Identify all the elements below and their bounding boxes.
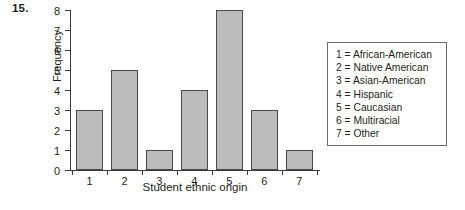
legend-entry: 4 = Hispanic bbox=[336, 88, 440, 101]
x-axis-tick bbox=[247, 170, 248, 175]
y-axis-tick-label: 8 bbox=[54, 5, 60, 16]
x-axis-tick bbox=[317, 170, 318, 175]
legend-entry: 3 = Asian-American bbox=[336, 74, 440, 87]
x-axis-tick bbox=[212, 170, 213, 175]
bar bbox=[146, 150, 173, 170]
y-axis-tick-label: 0 bbox=[54, 165, 60, 176]
y-axis-tick: 6 bbox=[65, 50, 70, 51]
y-axis-tick-label: 2 bbox=[54, 125, 60, 136]
legend-entry: 5 = Caucasian bbox=[336, 101, 440, 114]
x-axis-tick bbox=[142, 170, 143, 175]
y-axis-tick: 7 bbox=[65, 30, 70, 31]
bar bbox=[111, 70, 138, 170]
x-axis-tick bbox=[177, 170, 178, 175]
bar bbox=[181, 90, 208, 170]
bar bbox=[216, 10, 243, 170]
frequency-bar-chart-figure: 15. 0123456781234567 Frequency Student e… bbox=[0, 0, 465, 210]
legend-entry: 7 = Other bbox=[336, 127, 440, 140]
x-axis-tick bbox=[107, 170, 108, 175]
y-axis-line bbox=[70, 10, 71, 170]
legend-entry: 6 = Multiracial bbox=[336, 114, 440, 127]
y-axis-tick: 3 bbox=[65, 110, 70, 111]
bar bbox=[251, 110, 278, 170]
x-axis-title: Student ethnic origin bbox=[70, 181, 320, 193]
y-axis-tick: 2 bbox=[65, 130, 70, 131]
x-axis-tick bbox=[282, 170, 283, 175]
legend-box: 1 = African-American2 = Native American3… bbox=[327, 42, 447, 146]
y-axis-tick-label: 1 bbox=[54, 145, 60, 156]
y-axis-tick: 5 bbox=[65, 70, 70, 71]
problem-number: 15. bbox=[12, 2, 29, 14]
bar bbox=[76, 110, 103, 170]
legend-entry: 1 = African-American bbox=[336, 48, 440, 61]
y-axis-tick: 4 bbox=[65, 90, 70, 91]
y-axis-tick-label: 3 bbox=[54, 105, 60, 116]
y-axis-tick: 8 bbox=[65, 10, 70, 11]
legend-entry: 2 = Native American bbox=[336, 61, 440, 74]
y-axis-tick: 1 bbox=[65, 150, 70, 151]
y-axis-tick: 0 bbox=[65, 170, 70, 171]
x-axis-tick bbox=[72, 170, 73, 175]
y-axis-title: Frequency bbox=[51, 21, 63, 91]
plot-area: 0123456781234567 bbox=[70, 10, 320, 170]
bar bbox=[286, 150, 313, 170]
